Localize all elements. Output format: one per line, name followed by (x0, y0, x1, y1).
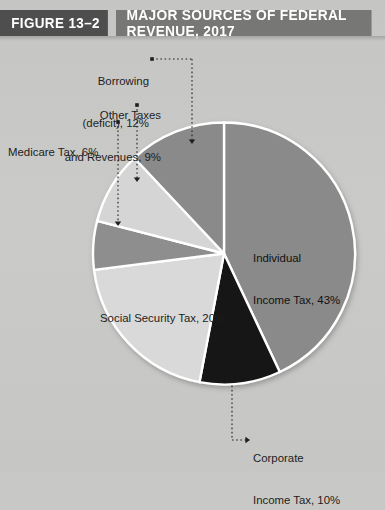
slice-label-medicare-line1: Medicare Tax, 6% (8, 145, 98, 159)
slice-label-social-line1: Social Security Tax, 20% (100, 311, 225, 325)
slice-label-corporate-line1: Corporate (253, 451, 340, 465)
slice-label-medicare-tax: Medicare Tax, 6% (8, 117, 98, 187)
slice-label-individual-line1: Individual (253, 251, 340, 265)
leader-arrow-corporate (245, 437, 250, 443)
slice-label-individual-line2: Income Tax, 43% (253, 293, 340, 307)
slice-label-corporate-income-tax: Corporate Income Tax, 10% (253, 423, 340, 510)
slice-label-social-security-tax: Social Security Tax, 20% (100, 283, 225, 353)
slice-label-individual-income-tax: Individual Income Tax, 43% (253, 223, 340, 335)
slice-label-corporate-line2: Income Tax, 10% (253, 493, 340, 507)
